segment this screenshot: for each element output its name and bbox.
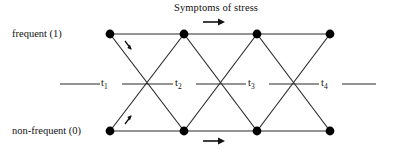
time-label-sub: 4: [324, 82, 328, 91]
state-node: [106, 30, 115, 39]
time-label-t4: t4: [321, 78, 328, 89]
transition-up-edges: [110, 34, 330, 131]
state-node: [253, 127, 262, 136]
state-node: [106, 127, 115, 136]
arrow-right-icon-bottom: [203, 138, 225, 145]
state-node: [180, 127, 189, 136]
state-node: [253, 30, 262, 39]
small-arrow-icon-top: [125, 41, 132, 50]
arrow-right-icon-top: [203, 19, 225, 26]
trellis-diagram: Symptoms of stress frequent (1) non-freq…: [0, 0, 398, 155]
state-node: [180, 30, 189, 39]
time-label-sub: 3: [251, 82, 255, 91]
small-arrow-icon-bottom: [125, 115, 132, 124]
time-label-t3: t3: [248, 78, 255, 89]
state-node: [326, 127, 335, 136]
time-label-sub: 2: [178, 82, 182, 91]
state-node: [326, 30, 335, 39]
state-label-frequent: frequent (1): [12, 29, 62, 40]
time-label-t1: t1: [101, 78, 108, 89]
time-label-t2: t2: [175, 78, 182, 89]
state-label-non-frequent: non-frequent (0): [12, 126, 81, 137]
time-label-sub: 1: [104, 82, 108, 91]
page-title: Symptoms of stress: [174, 3, 258, 14]
